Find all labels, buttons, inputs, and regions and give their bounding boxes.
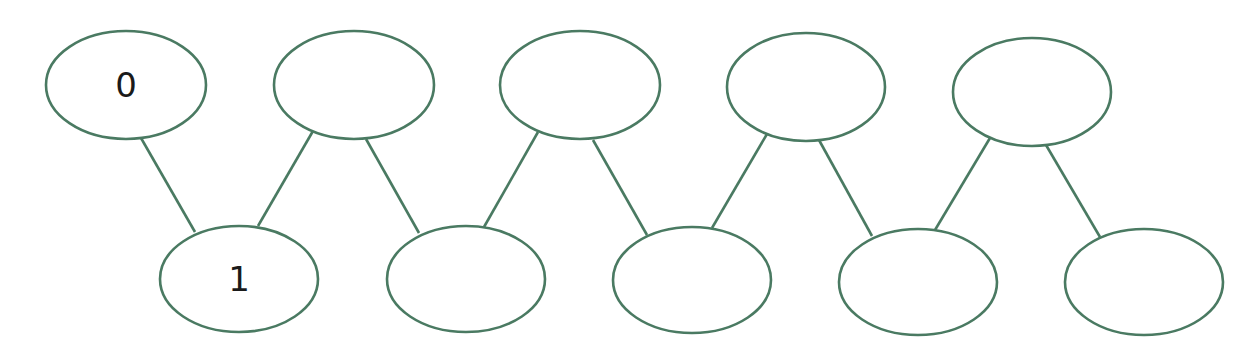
edge-b0-t1 — [258, 131, 313, 226]
nodes-group: 01 — [46, 31, 1223, 335]
node-ellipse — [613, 227, 771, 333]
node-b0: 1 — [160, 226, 318, 332]
node-ellipse — [727, 33, 885, 141]
node-ellipse — [953, 38, 1111, 146]
edges-group — [141, 131, 1100, 237]
node-ellipse — [839, 229, 997, 335]
node-t1 — [274, 31, 434, 139]
edge-t1-b1 — [366, 139, 419, 233]
node-b3 — [839, 229, 997, 335]
node-t3 — [727, 33, 885, 141]
node-t2 — [500, 31, 660, 139]
node-t4 — [953, 38, 1111, 146]
edge-b1-t2 — [484, 132, 538, 227]
node-ellipse — [274, 31, 434, 139]
zigzag-graph-diagram: 01 — [0, 0, 1253, 348]
node-ellipse — [1065, 229, 1223, 335]
node-t0: 0 — [46, 31, 206, 139]
edge-b2-t3 — [712, 134, 767, 228]
edge-t0-b0 — [141, 138, 195, 232]
edge-t2-b2 — [593, 140, 647, 235]
node-ellipse — [387, 226, 545, 332]
edge-t3-b3 — [819, 140, 872, 236]
node-label: 1 — [228, 259, 250, 299]
node-b2 — [613, 227, 771, 333]
node-label: 0 — [115, 65, 137, 105]
edge-b3-t4 — [935, 138, 990, 230]
node-ellipse — [500, 31, 660, 139]
node-b4 — [1065, 229, 1223, 335]
node-b1 — [387, 226, 545, 332]
edge-t4-b4 — [1046, 145, 1100, 237]
